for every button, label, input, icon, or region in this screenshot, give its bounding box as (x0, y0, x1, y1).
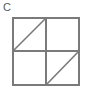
bottom-right-diagonal-shape (46, 51, 79, 85)
geometry-diagram (0, 0, 89, 94)
top-left-diagonal-shape (13, 18, 46, 51)
figure-panel: C (0, 0, 89, 94)
